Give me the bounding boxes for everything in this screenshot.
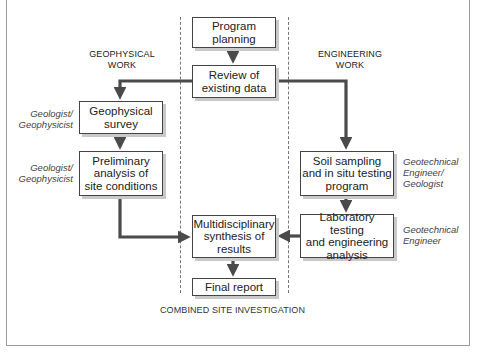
arrow-review-to-soil	[276, 81, 346, 144]
laboratory-testing-role: Geotechnical Engineer	[403, 224, 473, 246]
preliminary-analysis-box: Preliminary analysis of site conditions	[79, 151, 163, 196]
geophysical-work-heading: GEOPHYSICAL WORK	[72, 49, 172, 70]
preliminary-analysis-role: Geologist/ Geophysicist	[10, 162, 73, 184]
soil-sampling-box: Soil sampling and in situ testing progra…	[300, 151, 394, 196]
geophysical-survey-role: Geologist/ Geophysicist	[10, 108, 73, 130]
program-planning-box: Program planning	[192, 17, 276, 48]
soil-sampling-role: Geotechnical Engineer/ Geologist	[403, 156, 473, 189]
arrow-preliminary-to-synthesis	[120, 196, 185, 237]
combined-site-investigation-caption: COMBINED SITE INVESTIGATION	[160, 305, 305, 315]
final-report-box: Final report	[192, 278, 276, 296]
laboratory-testing-box: Laboratory testing and engineering analy…	[300, 214, 394, 258]
review-existing-data-box: Review of existing data	[192, 65, 276, 98]
arrow-review-to-geophysical	[120, 81, 192, 94]
engineering-work-heading: ENGINEERING WORK	[300, 49, 400, 70]
multidisciplinary-synthesis-box: Multidisciplinary synthesis of results	[192, 215, 276, 258]
geophysical-survey-box: Geophysical survey	[79, 101, 163, 134]
